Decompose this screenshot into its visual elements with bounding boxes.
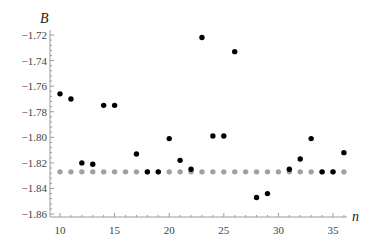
data-point — [265, 169, 270, 174]
data-point — [57, 91, 62, 96]
data-point — [330, 169, 335, 174]
data-point — [341, 169, 346, 174]
data-point — [90, 161, 95, 166]
y-tick-label: −1.72 — [22, 29, 47, 41]
data-point — [232, 49, 237, 54]
data-point — [276, 169, 281, 174]
data-point — [210, 169, 215, 174]
data-point — [112, 169, 117, 174]
data-point — [145, 169, 150, 174]
x-tick-label: 30 — [273, 224, 285, 236]
y-tick-label: −1.80 — [22, 131, 48, 143]
data-point — [167, 136, 172, 141]
data-point — [177, 158, 182, 163]
data-point — [101, 103, 106, 108]
data-point — [68, 96, 73, 101]
data-point — [134, 169, 139, 174]
data-point — [101, 169, 106, 174]
y-axis-label: B — [40, 11, 49, 26]
data-points — [57, 35, 346, 200]
data-point — [298, 156, 303, 161]
data-point — [167, 169, 172, 174]
data-point — [79, 160, 84, 165]
axes: −1.72−1.74−1.76−1.78−1.80−1.82−1.84−1.86… — [22, 29, 347, 236]
data-point — [68, 169, 73, 174]
y-tick-label: −1.76 — [22, 80, 48, 92]
data-point — [254, 195, 259, 200]
data-point — [298, 169, 303, 174]
data-point — [232, 169, 237, 174]
data-point — [199, 35, 204, 40]
x-tick-label: 15 — [109, 224, 121, 236]
data-point — [341, 150, 346, 155]
data-point — [112, 103, 117, 108]
data-point — [177, 169, 182, 174]
data-point — [188, 167, 193, 172]
y-tick-label: −1.82 — [22, 157, 47, 169]
x-axis-label: n — [352, 209, 359, 224]
data-point — [57, 169, 62, 174]
data-point — [123, 169, 128, 174]
x-tick-label: 20 — [164, 224, 176, 236]
data-point — [254, 169, 259, 174]
data-point — [287, 167, 292, 172]
x-tick-label: 25 — [218, 224, 230, 236]
data-point — [134, 151, 139, 156]
x-tick-label: 35 — [328, 224, 340, 236]
data-point — [319, 169, 324, 174]
data-point — [90, 169, 95, 174]
data-point — [210, 133, 215, 138]
y-tick-label: −1.86 — [22, 208, 48, 220]
data-point — [221, 169, 226, 174]
data-point — [243, 169, 248, 174]
x-tick-label: 10 — [55, 224, 67, 236]
data-point — [156, 169, 161, 174]
data-point — [265, 191, 270, 196]
data-point — [199, 169, 204, 174]
data-point — [308, 136, 313, 141]
data-point — [221, 133, 226, 138]
data-point — [79, 169, 84, 174]
scatter-chart: −1.72−1.74−1.76−1.78−1.80−1.82−1.84−1.86… — [0, 0, 376, 250]
data-point — [308, 169, 313, 174]
y-tick-label: −1.74 — [22, 55, 48, 67]
y-tick-label: −1.78 — [22, 106, 48, 118]
y-tick-label: −1.84 — [22, 182, 48, 194]
